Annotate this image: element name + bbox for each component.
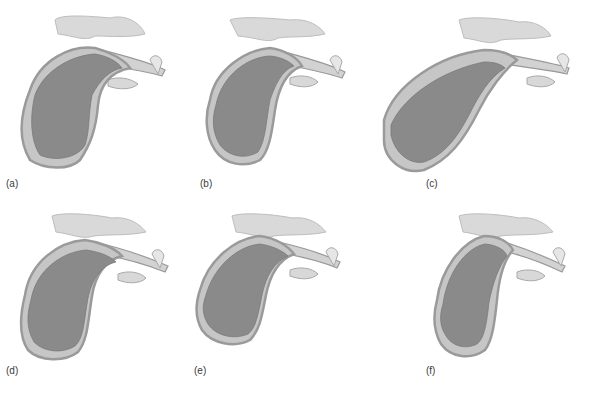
panel-label-b: (b)	[200, 178, 212, 189]
panel-label-c: (c)	[426, 178, 438, 189]
panel-label-e: (e)	[194, 365, 206, 376]
panel-b: (b)	[190, 0, 390, 195]
spine-icon	[55, 16, 145, 39]
panel-d: (d)	[0, 200, 190, 393]
panel-label-a: (a)	[6, 178, 18, 189]
fetus-illustration-e	[190, 200, 390, 393]
fetus-illustration-c	[389, 0, 589, 195]
panel-e: (e)	[190, 200, 390, 393]
panel-a: (a)	[0, 0, 190, 195]
fetus-illustration-b	[190, 0, 390, 195]
fetus-illustration-f	[389, 200, 589, 393]
panel-label-d: (d)	[6, 365, 18, 376]
panel-f: (f)	[389, 200, 589, 393]
panel-label-f: (f)	[426, 365, 435, 376]
fetus-illustration-a	[0, 0, 190, 195]
panel-c: (c)	[389, 0, 589, 195]
fetus-illustration-d	[0, 200, 190, 393]
